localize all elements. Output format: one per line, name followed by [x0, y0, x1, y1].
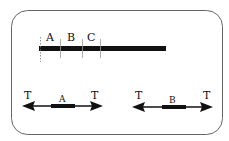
- tension-label-left: T: [24, 89, 32, 102]
- tension-label-left: T: [135, 89, 143, 102]
- tension-label-right: T: [91, 89, 99, 102]
- top-thick-bar: [39, 46, 166, 51]
- segment-label-c: C: [87, 31, 95, 44]
- center-block-b: [162, 105, 186, 109]
- segment-label-b: B: [67, 31, 75, 44]
- diagram-frame: [12, 11, 223, 135]
- tension-label-right: T: [203, 89, 211, 102]
- segment-label-a: A: [45, 31, 55, 44]
- center-label-b: B: [169, 95, 176, 105]
- center-label-a: A: [58, 94, 66, 104]
- center-block-a: [51, 104, 75, 108]
- diagram-canvas: A B C T A T T B T: [0, 0, 229, 141]
